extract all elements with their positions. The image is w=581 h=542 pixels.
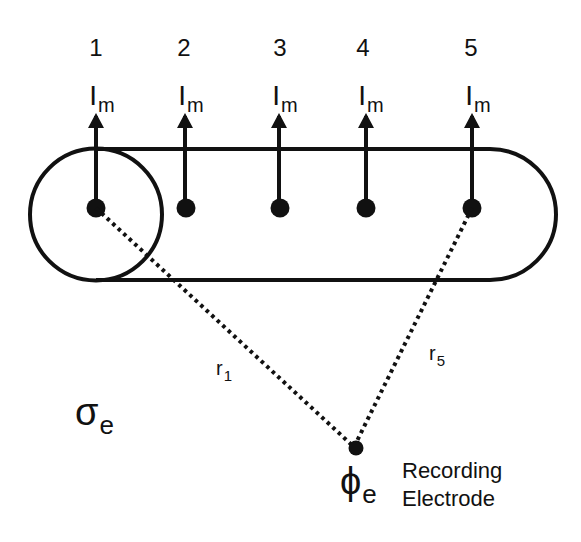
current-label-3: Im	[272, 82, 297, 115]
distance-line-r5	[354, 208, 472, 447]
extracellular-potential-label: ϕe	[340, 462, 377, 507]
source-dot-4	[357, 199, 376, 218]
node-label-5: 5	[464, 36, 477, 60]
cylinder-outline	[96, 149, 556, 280]
current-arrows	[88, 113, 480, 208]
current-sources	[87, 199, 482, 218]
recording-electrode-dot	[349, 441, 364, 456]
current-label-2: Im	[178, 82, 203, 115]
caption-line-2: Electrode	[402, 485, 502, 513]
node-label-4: 4	[356, 36, 369, 60]
current-label-4: Im	[358, 82, 383, 115]
caption-line-1: Recording	[402, 457, 502, 485]
node-label-1: 1	[89, 36, 102, 60]
node-label-3: 3	[273, 36, 286, 60]
distance-label-r1: r1	[216, 358, 232, 383]
extracellular-conductivity-label: σe	[75, 393, 114, 438]
node-label-2: 2	[177, 36, 190, 60]
source-dot-2	[177, 199, 196, 218]
source-dot-3	[271, 199, 290, 218]
current-label-5: Im	[465, 82, 490, 115]
distance-line-r1	[96, 208, 354, 447]
distance-label-r5: r5	[429, 343, 445, 368]
recording-electrode-caption: Recording Electrode	[402, 457, 502, 513]
current-label-1: Im	[89, 82, 114, 115]
